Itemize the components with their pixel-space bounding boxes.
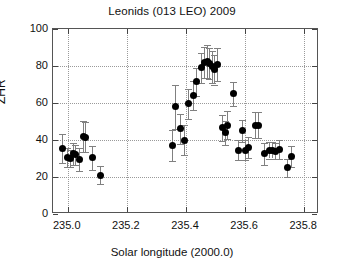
- error-bar-cap-lower: [72, 165, 79, 166]
- data-point: [169, 142, 176, 149]
- error-bar-cap-lower: [67, 167, 74, 168]
- gridline-vertical: [68, 29, 69, 212]
- data-point: [284, 164, 291, 171]
- error-bar-cap-lower: [89, 170, 96, 171]
- error-bar-cap-upper: [177, 114, 184, 115]
- data-point: [222, 129, 229, 136]
- y-axis-tick: [53, 103, 58, 104]
- x-axis-tick: [304, 207, 305, 212]
- error-bar-cap-lower: [190, 110, 197, 111]
- error-bar-cap-upper: [76, 148, 83, 149]
- error-bar-cap-upper: [239, 120, 246, 121]
- y-axis-tick-right: [312, 29, 317, 30]
- error-bar-cap-upper: [198, 53, 205, 54]
- x-axis-tick: [68, 207, 69, 212]
- error-bar-cap-upper: [224, 111, 231, 112]
- error-bar-cap-lower: [245, 158, 252, 159]
- error-bar-cap-upper: [272, 143, 279, 144]
- error-bar-cap-upper: [80, 121, 87, 122]
- data-point: [245, 144, 252, 151]
- error-bar-cap-lower: [181, 155, 188, 156]
- error-bar-cap-lower: [242, 160, 249, 161]
- error-bar-cap-upper: [185, 89, 192, 90]
- error-bar-cap-upper: [211, 55, 218, 56]
- data-point: [59, 145, 66, 152]
- error-bar-cap-lower: [261, 165, 268, 166]
- error-bar-cap-lower: [76, 171, 83, 172]
- error-bar-cap-upper: [59, 134, 66, 135]
- data-point: [193, 78, 200, 85]
- error-bar-cap-upper: [276, 140, 283, 141]
- x-axis-tick-top: [186, 29, 187, 34]
- error-bar-cap-upper: [255, 112, 262, 113]
- data-point: [97, 172, 104, 179]
- error-bar-cap-lower: [59, 163, 66, 164]
- error-bar-cap-lower: [219, 141, 226, 142]
- y-tick-label: 100: [8, 22, 48, 34]
- y-axis-tick: [53, 177, 58, 178]
- y-tick-label: 80: [8, 59, 48, 71]
- error-bar-cap-upper: [89, 146, 96, 147]
- data-point: [177, 125, 184, 132]
- x-axis-label: Solar longitude (2000.0): [0, 246, 344, 258]
- y-axis-tick: [53, 140, 58, 141]
- y-axis-label: ZHR: [0, 79, 8, 104]
- x-axis-tick: [186, 207, 187, 212]
- y-tick-label: 40: [8, 133, 48, 145]
- x-axis-tick-top: [304, 29, 305, 34]
- y-axis-tick-right: [312, 66, 317, 67]
- data-point: [276, 146, 283, 153]
- error-bar-cap-lower: [230, 106, 237, 107]
- error-bar-cap-upper: [172, 85, 179, 86]
- y-tick-label: 60: [8, 96, 48, 108]
- error-bar-cap-upper: [245, 137, 252, 138]
- error-bar-cap-lower: [276, 159, 283, 160]
- error-bar-cap-upper: [97, 166, 104, 167]
- error-bar-cap-lower: [97, 184, 104, 185]
- error-bar-cap-lower: [222, 145, 229, 146]
- gridline-vertical: [304, 29, 305, 212]
- error-bar-cap-lower: [239, 142, 246, 143]
- error-bar-cap-lower: [284, 177, 291, 178]
- error-bar-cap-lower: [169, 161, 176, 162]
- error-bar-cap-upper: [206, 48, 213, 49]
- x-axis-tick-top: [127, 29, 128, 34]
- data-point: [185, 100, 192, 107]
- data-point: [224, 122, 231, 129]
- error-bar-cap-upper: [204, 45, 211, 46]
- y-axis-tick: [53, 29, 58, 30]
- error-bar-cap-lower: [214, 81, 221, 82]
- data-point: [288, 153, 295, 160]
- y-axis-tick: [53, 214, 58, 215]
- data-point: [89, 154, 96, 161]
- error-bar-cap-lower: [185, 119, 192, 120]
- gridline-vertical: [186, 29, 187, 212]
- x-tick-label: 235.4: [155, 219, 215, 231]
- error-bar-cap-lower: [206, 79, 213, 80]
- error-bar-cap-lower: [224, 139, 231, 140]
- y-axis-tick-right: [312, 177, 317, 178]
- data-point: [82, 134, 89, 141]
- y-axis-tick-right: [312, 214, 317, 215]
- error-bar-cap-lower: [177, 144, 184, 145]
- chart-title: Leonids (013 LEO) 2009: [0, 5, 344, 17]
- y-axis-tick-right: [312, 140, 317, 141]
- x-tick-label: 235.0: [37, 219, 97, 231]
- error-bar-cap-lower: [235, 160, 242, 161]
- y-axis-tick: [53, 66, 58, 67]
- gridline-vertical: [127, 29, 128, 212]
- error-bar-cap-upper: [288, 146, 295, 147]
- error-bar-cap-upper: [214, 48, 221, 49]
- x-tick-label: 235.8: [273, 219, 333, 231]
- error-bar-cap-upper: [230, 82, 237, 83]
- x-tick-label: 235.6: [214, 219, 274, 231]
- error-bar-cap-lower: [272, 159, 279, 160]
- data-point: [235, 147, 242, 154]
- y-tick-label: 0: [8, 207, 48, 219]
- error-bar-cap-upper: [70, 143, 77, 144]
- error-bar-cap-upper: [72, 145, 79, 146]
- error-bar-cap-lower: [209, 83, 216, 84]
- x-tick-label: 235.2: [96, 219, 156, 231]
- x-axis-tick-top: [245, 29, 246, 34]
- error-bar-cap-lower: [82, 152, 89, 153]
